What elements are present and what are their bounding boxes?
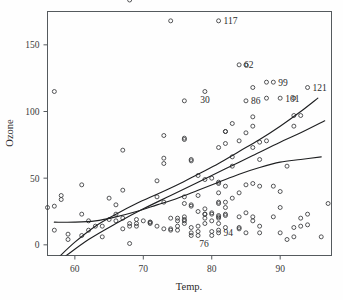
data-point: [196, 234, 200, 238]
x-tick-label: 80: [207, 264, 217, 274]
data-point: [271, 184, 275, 188]
data-point: [299, 114, 303, 118]
data-point: [258, 231, 262, 235]
data-point: [141, 219, 145, 223]
point-label-94: 94: [224, 228, 234, 238]
data-point: [251, 146, 255, 150]
labeled-data-point: [271, 80, 275, 84]
data-point: [237, 139, 241, 143]
data-point: [285, 164, 289, 168]
data-point: [244, 183, 248, 187]
point-label-117: 117: [224, 16, 238, 26]
data-point: [251, 219, 255, 223]
data-point: [223, 200, 227, 204]
data-point: [278, 206, 282, 210]
plot-frame: [48, 12, 332, 256]
data-point: [326, 202, 330, 206]
data-point: [155, 224, 159, 228]
data-point: [223, 184, 227, 188]
data-point: [155, 179, 159, 183]
data-point: [264, 96, 268, 100]
data-point: [66, 232, 70, 236]
data-point: [319, 235, 323, 239]
data-point: [59, 194, 63, 198]
data-point: [217, 146, 221, 150]
labeled-data-point: [210, 234, 214, 238]
data-point: [114, 203, 118, 207]
y-axis-title: Ozone: [4, 119, 15, 147]
data-point: [196, 194, 200, 198]
data-point: [203, 216, 207, 220]
x-tick-label: 60: [70, 264, 80, 274]
data-point: [217, 191, 221, 195]
data-point: [244, 131, 248, 135]
data-point: [80, 212, 84, 216]
labeled-data-point: [278, 96, 282, 100]
data-point: [128, 0, 132, 2]
data-point: [278, 190, 282, 194]
data-point: [52, 204, 56, 208]
data-point: [292, 226, 296, 230]
point-label-99: 99: [278, 78, 288, 88]
data-point: [162, 156, 166, 160]
labeled-data-point: [217, 19, 221, 23]
data-point: [251, 86, 255, 90]
linear-fit: [65, 121, 325, 257]
data-point: [121, 188, 125, 192]
data-point: [196, 224, 200, 228]
data-point: [189, 231, 193, 235]
data-point: [189, 226, 193, 230]
data-point: [264, 80, 268, 84]
data-point: [176, 219, 180, 223]
data-point: [176, 224, 180, 228]
data-point: [176, 228, 180, 232]
data-point: [244, 231, 248, 235]
y-tick-label: 150: [25, 40, 40, 50]
data-point: [162, 134, 166, 138]
data-point: [100, 235, 104, 239]
data-point: [196, 230, 200, 234]
x-axis-title: Temp.: [176, 281, 202, 292]
point-label-86: 86: [251, 96, 261, 106]
data-point: [128, 222, 132, 226]
data-point: [169, 216, 173, 220]
data-point: [271, 215, 275, 219]
data-point: [258, 184, 262, 188]
data-point: [258, 158, 262, 162]
point-label-121: 121: [313, 83, 328, 93]
point-label-76: 76: [199, 239, 209, 249]
data-point: [121, 148, 125, 152]
data-point: [230, 122, 234, 126]
y-tick-label: 50: [30, 174, 40, 184]
data-point: [299, 224, 303, 228]
y-axis-ticks: 050100150: [25, 40, 47, 250]
data-point: [278, 231, 282, 235]
data-point: [162, 162, 166, 166]
point-label-101: 101: [285, 94, 300, 104]
data-point: [203, 222, 207, 226]
data-point: [264, 139, 268, 143]
data-point: [182, 99, 186, 103]
labeled-data-point: [306, 86, 310, 90]
scatter-plot: 60708090 050100150 117629912130861019476…: [0, 0, 343, 300]
data-point: [182, 202, 186, 206]
labeled-data-point: [217, 231, 221, 235]
labeled-data-point: [244, 99, 248, 103]
data-point: [299, 216, 303, 220]
data-point: [59, 198, 63, 202]
x-tick-label: 70: [139, 264, 149, 274]
data-point: [203, 207, 207, 211]
data-point: [223, 130, 227, 134]
labeled-data-point: [237, 63, 241, 67]
labeled-data-point: [203, 90, 207, 94]
data-point: [52, 90, 56, 94]
data-point: [306, 212, 310, 216]
data-point: [169, 19, 173, 23]
data-point: [210, 219, 214, 223]
x-tick-label: 90: [275, 264, 285, 274]
y-tick-label: 0: [35, 240, 40, 250]
data-point: [285, 238, 289, 242]
data-point: [292, 235, 296, 239]
data-point: [251, 215, 255, 219]
point-label-62: 62: [244, 60, 254, 70]
